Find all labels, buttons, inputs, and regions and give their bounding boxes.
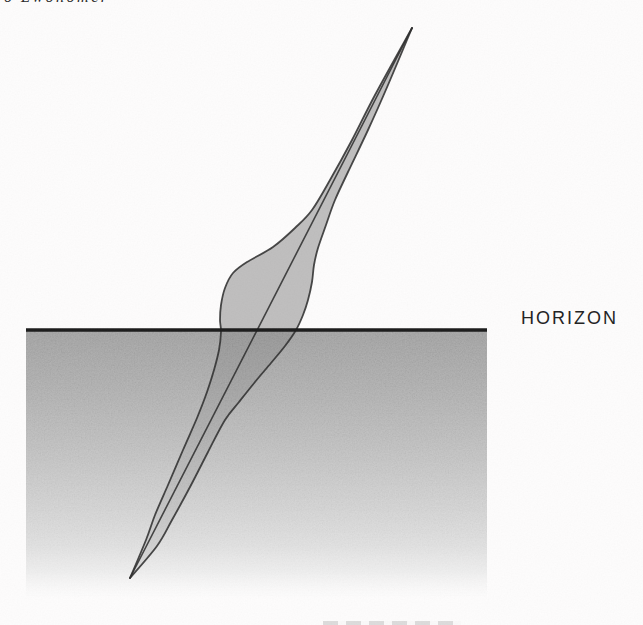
figure-canvas: o Lwonomer HORIZON xyxy=(0,0,643,625)
clipped-caption-top: o Lwonomer xyxy=(4,0,109,6)
horizon-label: HORIZON xyxy=(521,308,618,329)
clipped-caption-bottom-smudge xyxy=(323,621,461,625)
